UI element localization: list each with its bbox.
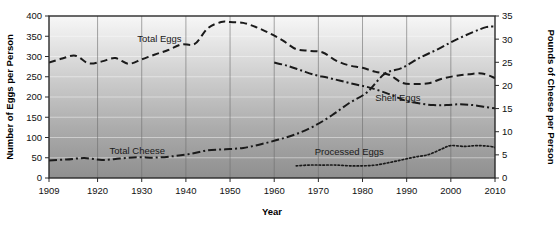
y-axis-right-tick-label: 20 (502, 80, 513, 91)
dual-axis-line-chart: 050100150200250300350400 05101520253035 … (0, 0, 559, 234)
y-axis-right-tick-label: 0 (502, 172, 507, 183)
x-axis-tick-label: 1940 (175, 185, 196, 196)
y-axis-right-title: Pounds of Cheese per Person (546, 29, 557, 164)
x-axis-tick-label: 1970 (308, 185, 329, 196)
y-axis-left-tick-label: 400 (26, 10, 42, 21)
y-axis-right-tick-label: 35 (502, 10, 513, 21)
y-axis-left-tick-label: 350 (26, 31, 42, 42)
y-axis-right-tick-label: 5 (502, 149, 507, 160)
x-axis-tick-label: 1909 (38, 185, 59, 196)
x-axis-tick-label: 1990 (396, 185, 417, 196)
x-axis-tick-label: 1930 (131, 185, 152, 196)
y-axis-left-tick-label: 0 (37, 172, 42, 183)
x-axis-tick-label: 1920 (87, 185, 108, 196)
y-axis-right-tick-label: 15 (502, 103, 513, 114)
y-axis-left-tick-label: 300 (26, 51, 42, 62)
y-axis-right-tick-label: 25 (502, 57, 513, 68)
y-axis-left-tick-label: 50 (31, 152, 42, 163)
series-label-total-eggs: Total Eggs (137, 33, 182, 44)
series-label-processed-eggs: Processed Eggs (315, 146, 384, 157)
y-axis-left-tick-label: 250 (26, 71, 42, 82)
x-axis-tick-label: 2000 (440, 185, 461, 196)
y-axis-left-tick-label: 200 (26, 91, 42, 102)
series-label-total-cheese: Total Cheese (110, 145, 165, 156)
x-axis-tick-label: 1950 (219, 185, 240, 196)
y-axis-left-tick-label: 150 (26, 112, 42, 123)
series-label-shell-eggs: Shell Eggs (375, 92, 421, 103)
x-axis-tick-label: 1960 (264, 185, 285, 196)
x-axis-tick-label: 2010 (484, 185, 505, 196)
y-axis-left-tick-label: 100 (26, 132, 42, 143)
y-axis-right-tick-label: 10 (502, 126, 513, 137)
y-axis-left-title: Number of Eggs per Person (4, 34, 15, 160)
x-axis-tick-label: 1980 (352, 185, 373, 196)
y-axis-right-tick-label: 30 (502, 34, 513, 45)
x-axis-title: Year (262, 206, 282, 217)
chart-container: 050100150200250300350400 05101520253035 … (0, 0, 559, 234)
